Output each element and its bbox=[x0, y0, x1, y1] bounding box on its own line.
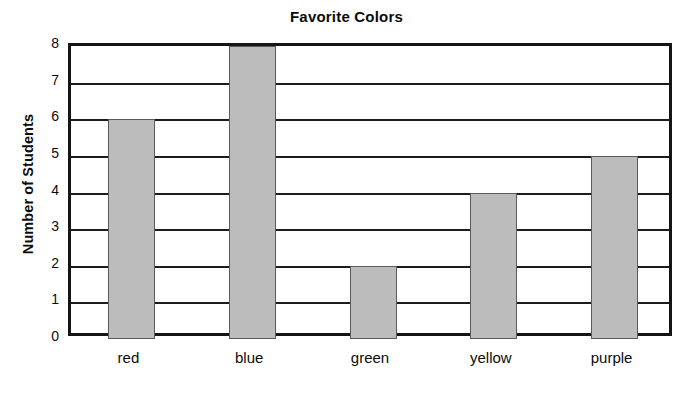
bar-blue bbox=[229, 46, 276, 339]
bar-red bbox=[108, 119, 155, 339]
bar-yellow bbox=[470, 193, 517, 340]
gridline bbox=[71, 83, 669, 85]
x-axis-tick-label-red: red bbox=[118, 350, 140, 365]
gridline bbox=[71, 156, 669, 158]
y-axis-tick-label: 8 bbox=[33, 36, 59, 50]
y-axis-tick-label: 7 bbox=[33, 73, 59, 87]
y-axis-tick-label: 2 bbox=[33, 256, 59, 270]
y-axis-tick-label: 0 bbox=[33, 329, 59, 343]
x-axis-tick-label-purple: purple bbox=[591, 350, 633, 365]
chart-title: Favorite Colors bbox=[0, 8, 693, 25]
x-axis-tick-label-blue: blue bbox=[235, 350, 263, 365]
bar-chart-figure: Favorite Colors Number of Students 87654… bbox=[0, 0, 693, 393]
y-axis-tick-label: 6 bbox=[33, 109, 59, 123]
y-axis-tick-label: 5 bbox=[33, 146, 59, 160]
x-axis-tick-label-green: green bbox=[351, 350, 389, 365]
y-axis-tick-label: 4 bbox=[33, 183, 59, 197]
gridline bbox=[71, 193, 669, 195]
plot-area bbox=[68, 43, 672, 336]
bar-purple bbox=[591, 156, 638, 339]
gridline bbox=[71, 229, 669, 231]
y-axis-tick-label: 1 bbox=[33, 292, 59, 306]
gridline bbox=[71, 119, 669, 121]
x-axis-tick-label-yellow: yellow bbox=[470, 350, 512, 365]
y-axis-tick-label: 3 bbox=[33, 219, 59, 233]
bar-green bbox=[350, 266, 397, 339]
